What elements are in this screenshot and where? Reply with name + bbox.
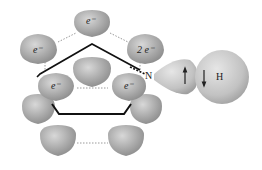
label-nitrogen: N — [145, 70, 152, 81]
lobe-bottom-left — [40, 125, 76, 156]
label-electron-mid-left: e⁻ — [51, 80, 60, 91]
lobe-bottom-right — [108, 125, 144, 156]
label-electron-upper-right: 2 e⁻ — [137, 44, 154, 55]
ring-bond-bottom — [52, 104, 131, 114]
n-h-bond-lobe — [154, 59, 198, 94]
label-electron-upper-left: e⁻ — [33, 44, 42, 55]
label-electron-mid-right: e⁻ — [124, 80, 133, 91]
bottom-lobes — [22, 94, 162, 156]
lobe-center — [73, 57, 111, 87]
label-hydrogen: H — [216, 71, 223, 82]
label-electron-top: e⁻ — [86, 15, 95, 26]
